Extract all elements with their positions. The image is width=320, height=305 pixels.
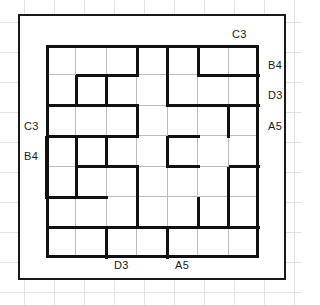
grid-cell[interactable] [107, 167, 137, 197]
grid-cell[interactable] [46, 228, 76, 258]
grid-cell[interactable] [137, 75, 167, 105]
grid-cell[interactable] [76, 167, 106, 197]
grid-cell[interactable] [76, 45, 106, 75]
grid-cell[interactable] [229, 45, 259, 75]
grid-cell[interactable] [76, 197, 106, 227]
grid-cell[interactable] [198, 197, 228, 227]
grid-cell[interactable] [46, 75, 76, 105]
label-bottom-d3: D3 [114, 259, 129, 271]
grid-cell[interactable] [107, 75, 137, 105]
grid-cell[interactable] [76, 136, 106, 166]
grid-cell[interactable] [76, 75, 106, 105]
grid-cell[interactable] [198, 167, 228, 197]
grid-cell[interactable] [198, 228, 228, 258]
label-right-b4: B4 [268, 59, 282, 71]
grid-cell[interactable] [168, 167, 198, 197]
grid-cell[interactable] [198, 136, 228, 166]
grid-cell[interactable] [229, 136, 259, 166]
grid-cell[interactable] [168, 45, 198, 75]
label-right-a5: A5 [268, 120, 282, 132]
grid-cell[interactable] [137, 136, 167, 166]
grid-cell[interactable] [137, 106, 167, 136]
label-left-b4: B4 [24, 150, 38, 162]
grid-cell[interactable] [137, 228, 167, 258]
grid-cell[interactable] [168, 197, 198, 227]
grid-cell[interactable] [168, 228, 198, 258]
grid-cell[interactable] [76, 106, 106, 136]
grid-cell[interactable] [137, 197, 167, 227]
grid-cell[interactable] [229, 167, 259, 197]
grid-cell[interactable] [46, 136, 76, 166]
grid-cell[interactable] [168, 106, 198, 136]
grid-cell[interactable] [229, 197, 259, 227]
grid-cell[interactable] [168, 75, 198, 105]
grid-cell[interactable] [168, 136, 198, 166]
grid-cell[interactable] [107, 197, 137, 227]
grid-cell[interactable] [107, 106, 137, 136]
grid-cell[interactable] [198, 106, 228, 136]
grid-cell[interactable] [107, 228, 137, 258]
grid-cell[interactable] [46, 167, 76, 197]
grid-cell[interactable] [229, 106, 259, 136]
grid-cell[interactable] [46, 106, 76, 136]
grid-cell[interactable] [76, 228, 106, 258]
grid-cell[interactable] [107, 45, 137, 75]
grid-cell[interactable] [229, 228, 259, 258]
grid-cell[interactable] [198, 45, 228, 75]
grid-cell[interactable] [229, 75, 259, 105]
puzzle-grid[interactable] [46, 45, 259, 258]
grid-cell[interactable] [46, 45, 76, 75]
grid-cell[interactable] [137, 167, 167, 197]
grid-cells[interactable] [46, 45, 259, 258]
grid-cell[interactable] [198, 75, 228, 105]
label-bottom-a5: A5 [175, 259, 189, 271]
label-left-c3: C3 [24, 120, 39, 132]
label-right-d3: D3 [268, 89, 283, 101]
grid-cell[interactable] [107, 136, 137, 166]
label-top-c3: C3 [232, 28, 247, 40]
grid-cell[interactable] [46, 197, 76, 227]
grid-cell[interactable] [137, 45, 167, 75]
